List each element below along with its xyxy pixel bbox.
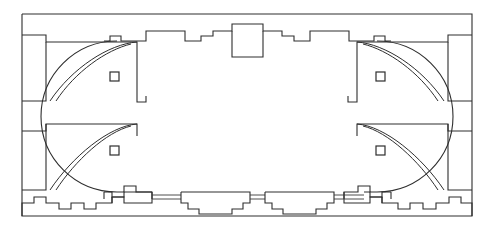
pier-bottom-right [376, 146, 385, 155]
outer-bottom-steps-left-inner [112, 192, 152, 203]
inner-hall-top-wall [104, 24, 391, 41]
outer-enclosure-group [22, 14, 472, 216]
corner-niche-top-right-leg [448, 42, 472, 101]
outer-bottom-steps-right [382, 197, 472, 216]
bottom-bay-left-outline [181, 192, 250, 214]
outer-bottom-step-wall-right [344, 192, 472, 216]
corner-niche-bottom-left [22, 124, 137, 190]
corner-niche-bottom-left-arc-inner [56, 126, 131, 190]
outer-bottom-step-wall-left [22, 192, 152, 216]
inner-hall-bottom-wall-right [364, 192, 391, 197]
bottom-bay-right [265, 192, 334, 214]
corridor-middle [250, 195, 265, 199]
corner-niche-top-left-arc-outer [50, 42, 137, 101]
corner-niche-bottom-right [357, 124, 472, 190]
bottom-bay-left [181, 192, 250, 214]
outer-bottom-steps-right-inner [344, 192, 382, 203]
floor-plan-drawing [0, 0, 496, 232]
corner-niche-bottom-right-arc-inner [363, 126, 438, 190]
top-central-bay-group [232, 31, 263, 57]
corridor-right [334, 195, 364, 199]
corner-niche-top-right-arc-inner [363, 44, 438, 101]
outer-enclosure-rectangle [22, 14, 472, 216]
corner-niche-top-right [348, 35, 472, 102]
pier-top-right [376, 72, 385, 81]
pier-group [110, 72, 385, 155]
inner-hall-top-wall-group [104, 24, 391, 41]
inner-hall-bottom-wall-group [104, 192, 391, 197]
inner-hall-arc-left [41, 41, 117, 192]
floor-plan-canvas [0, 0, 496, 232]
corridor-left [152, 195, 181, 199]
top-central-bay [232, 31, 263, 57]
inner-hall-bottom-wall-left [104, 192, 152, 197]
pier-bottom-left [110, 146, 119, 155]
corner-niche-top-right-arc-outer [357, 42, 444, 101]
inner-hall-arc-right [377, 41, 453, 192]
bottom-bay-right-outline [265, 192, 334, 214]
pier-top-left [110, 72, 119, 81]
corner-niche-top-left [22, 35, 146, 102]
outer-bottom-steps-left [22, 197, 112, 216]
corner-niche-top-left-arc-inner [56, 44, 131, 101]
corner-niche-top-left-leg [22, 42, 46, 101]
inner-hall-oval-arcs [41, 41, 453, 192]
